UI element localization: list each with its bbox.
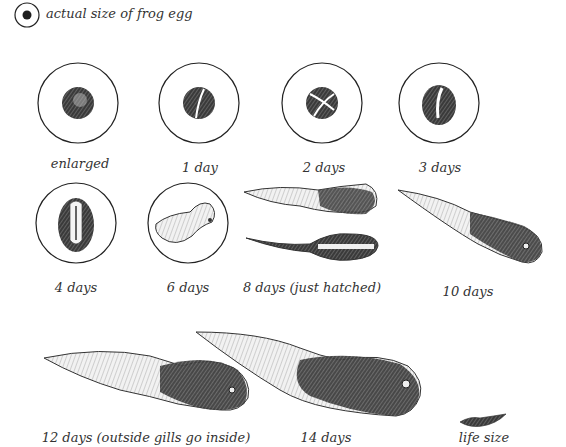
tadpole-life-size (460, 414, 506, 427)
illustration (0, 0, 566, 447)
actual-size-egg-icon (15, 3, 39, 27)
label-14-days: 14 days (301, 430, 352, 445)
tadpole-10-days (398, 190, 542, 263)
egg-4-days (36, 183, 116, 263)
tadpole-12-days (44, 351, 249, 410)
label-2-days: 2 days (303, 160, 346, 175)
egg-2-days (282, 63, 362, 143)
label-12-days: 12 days (outside gills go inside) (42, 430, 251, 445)
label-enlarged: enlarged (51, 156, 110, 171)
egg-3-days (399, 63, 479, 143)
label-1-day: 1 day (182, 160, 218, 175)
label-6-days: 6 days (167, 280, 210, 295)
label-3-days: 3 days (419, 160, 462, 175)
label-4-days: 4 days (55, 280, 98, 295)
embryo-6-days (148, 183, 228, 263)
label-10-days: 10 days (443, 284, 494, 299)
egg-1-day (159, 63, 239, 143)
egg-enlarged (38, 63, 118, 143)
legend-label: actual size of frog egg (46, 6, 193, 21)
label-life-size: life size (459, 430, 509, 445)
tadpole-8-days-side (244, 184, 377, 214)
tadpole-8-days-underside (246, 234, 378, 261)
label-8-days: 8 days (just hatched) (243, 280, 381, 295)
